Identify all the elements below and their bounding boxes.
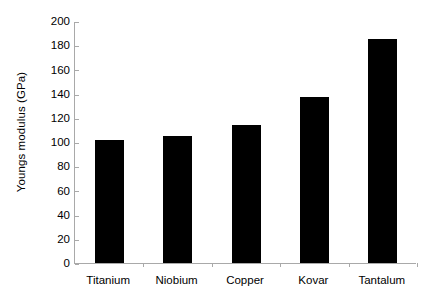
y-axis-tick-label: 40 xyxy=(57,210,75,222)
y-axis-tick-label: 120 xyxy=(51,113,75,125)
x-axis-tick-mark xyxy=(349,263,350,267)
x-axis-labels: TitaniumNiobiumCopperKovarTantalum xyxy=(74,270,416,290)
x-axis-label-kovar: Kovar xyxy=(298,270,328,290)
y-axis-tick-label: 200 xyxy=(51,16,75,28)
bar-niobium[interactable] xyxy=(163,136,192,263)
y-axis-title: Youngs modulus (GPa) xyxy=(10,0,32,264)
plot-area: 020406080100120140160180200 xyxy=(74,22,416,264)
bars-layer xyxy=(75,22,416,263)
y-axis-tick-mark xyxy=(75,264,79,265)
bar-copper[interactable] xyxy=(232,125,261,263)
x-axis-tick-mark xyxy=(280,263,281,267)
y-axis-tick-label: 140 xyxy=(51,89,75,101)
x-axis-tick-mark xyxy=(143,263,144,267)
x-axis-label-tantalum: Tantalum xyxy=(358,270,405,290)
y-axis-tick-label: 0 xyxy=(64,258,75,270)
bar-titanium[interactable] xyxy=(95,140,124,263)
bar-kovar[interactable] xyxy=(300,97,329,263)
y-axis-tick-label: 20 xyxy=(57,234,75,246)
y-axis-tick-label: 180 xyxy=(51,40,75,52)
y-axis-tick-label: 80 xyxy=(57,161,75,173)
y-axis-tick-label: 60 xyxy=(57,186,75,198)
y-axis-tick-label: 160 xyxy=(51,65,75,77)
x-axis-tick-mark xyxy=(212,263,213,267)
x-axis-tick-mark xyxy=(417,263,418,267)
bar-tantalum[interactable] xyxy=(368,39,397,263)
x-axis-label-copper: Copper xyxy=(226,270,264,290)
y-axis-tick-label: 100 xyxy=(51,137,75,149)
x-axis-label-titanium: Titanium xyxy=(86,270,130,290)
bar-chart-figure: Youngs modulus (GPa) 0204060801001201401… xyxy=(0,0,437,298)
x-axis-label-niobium: Niobium xyxy=(156,270,198,290)
